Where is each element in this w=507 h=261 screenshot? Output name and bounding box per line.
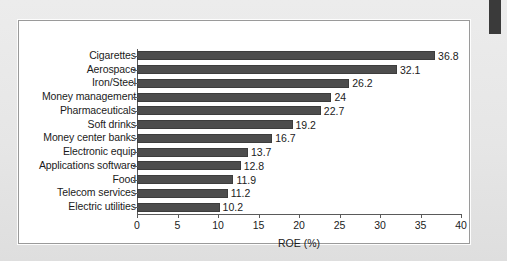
y-axis-tick <box>133 207 138 208</box>
category-label: Aerospace <box>87 64 136 75</box>
page-edge-marker <box>489 0 501 34</box>
bar[interactable] <box>137 161 241 170</box>
bar-value-label: 11.2 <box>228 188 251 199</box>
y-axis-tick <box>133 56 138 57</box>
bar[interactable] <box>137 51 435 60</box>
x-axis-tick <box>137 214 138 218</box>
x-axis-tick <box>259 214 260 218</box>
y-axis-tick <box>133 166 138 167</box>
bar-row[interactable]: 11.9 <box>137 175 507 184</box>
x-axis-tick <box>380 214 381 218</box>
y-axis-tick <box>133 83 138 84</box>
y-axis-tick <box>133 125 138 126</box>
bar-row[interactable]: 11.2 <box>137 189 507 198</box>
category-label: Soft drinks <box>87 119 136 130</box>
x-axis-tick-label: 15 <box>253 220 265 231</box>
category-label: Money management <box>42 91 136 102</box>
category-label: Electric utilities <box>68 201 136 212</box>
x-axis-tick-label: 30 <box>374 220 386 231</box>
bar[interactable] <box>137 93 331 102</box>
x-axis-tick-label: 35 <box>415 220 427 231</box>
bar[interactable] <box>137 120 293 129</box>
bar-row[interactable]: 12.8 <box>137 161 507 170</box>
y-axis-tick <box>133 111 138 112</box>
category-label: Applications software <box>39 160 136 171</box>
bar-value-label: 10.2 <box>220 202 243 213</box>
bar-value-label: 12.8 <box>241 161 264 172</box>
y-axis-tick <box>133 97 138 98</box>
bar-value-label: 13.7 <box>248 147 271 158</box>
bar-value-label: 11.9 <box>233 174 256 185</box>
y-axis-tick <box>133 180 138 181</box>
bar[interactable] <box>137 148 248 157</box>
category-label: Telecom services <box>57 187 136 198</box>
bar-value-label: 32.1 <box>397 64 420 75</box>
x-axis-tick-label: 25 <box>334 220 346 231</box>
bar[interactable] <box>137 134 272 143</box>
bar[interactable] <box>137 189 228 198</box>
bar[interactable] <box>137 106 321 115</box>
category-label: Cigarettes <box>89 50 136 61</box>
bars-area: 36.832.126.22422.719.216.713.712.811.911… <box>137 21 459 243</box>
page-background: CigarettesAerospaceIron/SteelMoney manag… <box>0 0 507 261</box>
x-axis-tick <box>461 214 462 218</box>
bar-row[interactable]: 16.7 <box>137 134 507 143</box>
category-label: Iron/Steel <box>92 77 136 88</box>
y-axis-tick <box>133 193 138 194</box>
x-axis-tick-label: 5 <box>175 220 181 231</box>
bar-row[interactable]: 19.2 <box>137 120 507 129</box>
bar[interactable] <box>137 65 397 74</box>
bar-row[interactable]: 36.8 <box>137 51 507 60</box>
x-axis-tick <box>299 214 300 218</box>
x-axis-tick <box>178 214 179 218</box>
category-label: Electronic equip <box>63 146 136 157</box>
x-axis-tick-label: 40 <box>455 220 467 231</box>
category-label-column: CigarettesAerospaceIron/SteelMoney manag… <box>19 21 136 243</box>
category-label: Money center banks <box>43 132 136 143</box>
x-axis-tick-label: 0 <box>134 220 140 231</box>
category-label: Food <box>112 174 136 185</box>
bar-row[interactable]: 10.2 <box>137 203 507 212</box>
bar-value-label: 16.7 <box>272 133 295 144</box>
bar-chart-plot: CigarettesAerospaceIron/SteelMoney manag… <box>19 21 469 243</box>
chart-figure-frame: CigarettesAerospaceIron/SteelMoney manag… <box>18 20 470 244</box>
x-axis-tick-label: 10 <box>212 220 224 231</box>
bar-row[interactable]: 24 <box>137 93 507 102</box>
bar[interactable] <box>137 203 220 212</box>
bar-value-label: 22.7 <box>321 106 344 117</box>
bar-row[interactable]: 22.7 <box>137 106 507 115</box>
bar-value-label: 19.2 <box>293 119 316 130</box>
x-axis-tick <box>340 214 341 218</box>
x-axis-title: ROE (%) <box>137 238 461 249</box>
y-axis-tick <box>133 70 138 71</box>
bar-row[interactable]: 32.1 <box>137 65 507 74</box>
category-label: Pharmaceuticals <box>60 105 136 116</box>
bar-row[interactable]: 26.2 <box>137 79 507 88</box>
y-axis-tick <box>133 138 138 139</box>
bar-value-label: 36.8 <box>435 51 458 62</box>
y-axis-tick <box>133 152 138 153</box>
x-axis-tick <box>421 214 422 218</box>
bar-value-label: 26.2 <box>349 78 372 89</box>
x-axis-tick <box>218 214 219 218</box>
x-axis-tick-label: 20 <box>293 220 305 231</box>
bar[interactable] <box>137 79 349 88</box>
bar[interactable] <box>137 175 233 184</box>
bar-value-label: 24 <box>331 92 346 103</box>
bar-row[interactable]: 13.7 <box>137 148 507 157</box>
